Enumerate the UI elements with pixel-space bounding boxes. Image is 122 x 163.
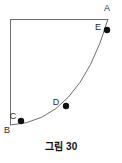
point-dot-d: [63, 103, 69, 109]
figure-container: A B C D E 그림 30: [0, 0, 122, 163]
point-label-c: C: [10, 111, 17, 121]
vertex-label-a: A: [104, 3, 110, 13]
point-label-e: E: [95, 22, 101, 32]
point-dot-e: [104, 27, 110, 33]
point-label-d: D: [53, 97, 60, 107]
point-dot-c: [18, 118, 24, 124]
geometry-diagram: A B C D E: [0, 0, 122, 140]
vertex-label-b: B: [4, 125, 10, 135]
arc-curve-b-to-a: [10, 19, 108, 125]
figure-caption: 그림 30: [0, 138, 122, 153]
